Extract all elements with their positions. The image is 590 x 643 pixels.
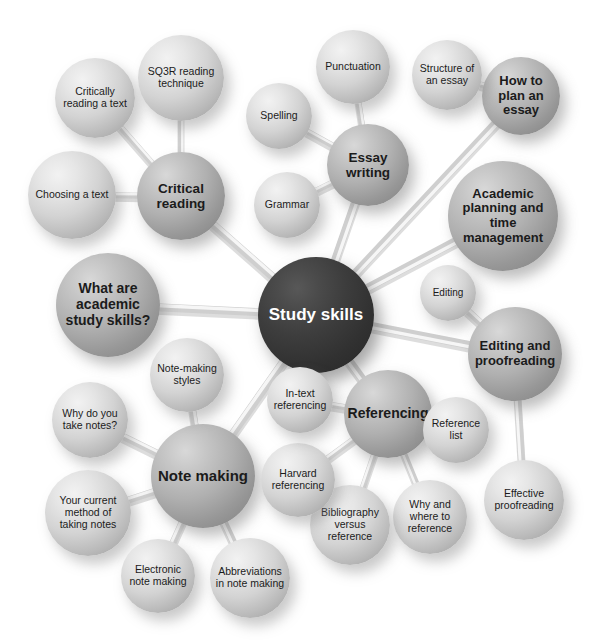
node-label: Your current method of taking notes (45, 495, 131, 530)
node-label: Grammar (254, 199, 320, 211)
leaf-node-reference-list[interactable]: Reference list (423, 397, 489, 463)
node-label: Effective proofreading (484, 488, 564, 512)
leaf-node-critically-reading-a-text[interactable]: Critically reading a text (55, 58, 135, 138)
leaf-node-your-current-method[interactable]: Your current method of taking notes (45, 470, 131, 556)
leaf-node-abbreviations-in-note-making[interactable]: Abbreviations in note making (210, 538, 290, 618)
branch-node-referencing[interactable]: Referencing (344, 370, 432, 458)
node-label: Why do you take notes? (52, 408, 128, 432)
node-label: Structure of an essay (412, 63, 482, 87)
branch-node-note-making[interactable]: Note making (151, 424, 255, 528)
node-label: Academic planning and time management (448, 187, 558, 245)
leaf-node-effective-proofreading[interactable]: Effective proofreading (484, 460, 564, 540)
connector-editing-proofreading-to-effective-proofreading (516, 397, 522, 467)
node-label: Bibliography versus reference (310, 507, 390, 542)
node-label: Abbreviations in note making (210, 566, 290, 590)
node-label: SQ3R reading technique (138, 66, 224, 90)
node-label: Critically reading a text (55, 86, 135, 110)
connector-hub-to-essay-writing (334, 200, 358, 267)
branch-node-what-are-academic[interactable]: What are academic study skills? (56, 253, 160, 357)
node-label: Reference list (423, 418, 489, 442)
node-label: Study skills (258, 305, 374, 324)
leaf-node-grammar[interactable]: Grammar (254, 172, 320, 238)
node-label: Note-making styles (150, 363, 224, 387)
node-label: Why and where to reference (393, 499, 467, 534)
leaf-node-punctuation[interactable]: Punctuation (316, 30, 390, 104)
branch-node-critical-reading[interactable]: Critical reading (137, 152, 225, 240)
node-label: What are academic study skills? (56, 281, 160, 328)
leaf-node-editing[interactable]: Editing (420, 265, 476, 321)
leaf-node-harvard-referencing[interactable]: Harvard referencing (261, 443, 335, 517)
branch-node-essay-writing[interactable]: Essay writing (327, 124, 409, 206)
leaf-node-structure-of-an-essay[interactable]: Structure of an essay (412, 40, 482, 110)
leaf-node-why-do-you-take-notes[interactable]: Why do you take notes? (52, 382, 128, 458)
node-label: How to plan an essay (482, 74, 560, 118)
branch-node-editing-proofreading[interactable]: Editing and proofreading (468, 307, 562, 401)
leaf-node-note-making-styles[interactable]: Note-making styles (150, 338, 224, 412)
node-label: Referencing (343, 406, 434, 422)
leaf-node-choosing-a-text[interactable]: Choosing a text (28, 151, 116, 239)
leaf-node-why-and-where-to-reference[interactable]: Why and where to reference (393, 480, 467, 554)
leaf-node-electronic-note-making[interactable]: Electronic note making (121, 539, 195, 613)
node-label: Punctuation (316, 61, 390, 73)
node-label: Critical reading (137, 181, 225, 211)
leaf-node-spelling[interactable]: Spelling (246, 83, 312, 149)
leaf-node-sq3r-reading-technique[interactable]: SQ3R reading technique (138, 35, 224, 121)
node-label: Electronic note making (121, 564, 195, 588)
hub-node-study-skills[interactable]: Study skills (258, 257, 374, 373)
branch-node-how-to-plan-an-essay[interactable]: How to plan an essay (482, 57, 560, 135)
node-label: Essay writing (327, 150, 409, 180)
connector-critical-reading-to-critically-reading-a-text (119, 124, 156, 169)
connector-hub-to-what-are-academic (156, 306, 262, 316)
node-label: Spelling (246, 110, 312, 122)
branch-node-academic-planning[interactable]: Academic planning and time management (448, 161, 558, 271)
connector-hub-to-editing-proofreading (369, 325, 473, 348)
node-label: Harvard referencing (261, 468, 335, 492)
node-label: In-text referencing (267, 388, 333, 412)
node-label: Note making (151, 468, 255, 485)
node-label: Editing (420, 287, 476, 298)
leaf-node-in-text-referencing[interactable]: In-text referencing (267, 367, 333, 433)
mind-map-canvas: Study skillsCritical readingEssay writin… (0, 0, 590, 643)
node-label: Choosing a text (28, 189, 116, 201)
node-label: Editing and proofreading (468, 339, 562, 368)
